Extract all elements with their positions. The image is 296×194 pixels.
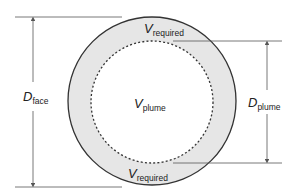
d-plume-label: Dplume xyxy=(248,95,281,112)
diagram-canvas: Vrequired Vplume Vrequired Dface Dplume xyxy=(0,0,296,194)
d-face-label: Dface xyxy=(23,89,49,106)
plume-circle xyxy=(91,41,213,163)
